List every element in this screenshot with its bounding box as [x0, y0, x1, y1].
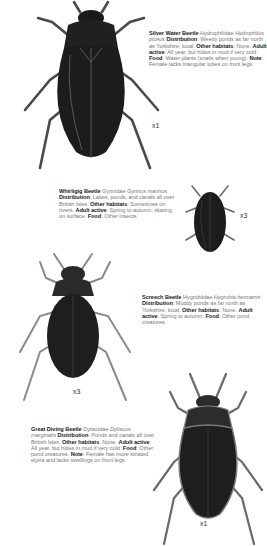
other-habitats-label: Other habitats	[62, 439, 99, 445]
other-habitats-label: Other habitats	[90, 201, 127, 207]
adult-active-label: Adult active	[75, 207, 106, 213]
silver-water-beetle-illustration	[10, 0, 160, 170]
note-label: Note	[249, 55, 261, 61]
food-label: Food	[88, 213, 101, 219]
family-name: Gyrinidae	[102, 188, 126, 194]
food-label: Food	[149, 55, 162, 61]
entry-great-diving-beetle: Great Diving Beetle Dytiscidae Dytiscus …	[31, 426, 157, 464]
scale-label: x3	[73, 388, 80, 395]
food-text: Other insects.	[104, 213, 138, 219]
latin-name: Gyrinus marinus	[127, 188, 167, 194]
latin-name: Hygrobia hermanni	[214, 294, 260, 300]
food-label: Food	[205, 313, 218, 319]
other-habitats-text: None.	[102, 439, 117, 445]
scale-label: x3	[240, 212, 247, 219]
food-label: Food	[123, 445, 136, 451]
species-name: Whirligig Beetle	[59, 188, 100, 194]
adult-active-text: All year, but hides in mud if very cold.	[31, 445, 121, 451]
adult-active-text: All year, but hides in mud if very cold.	[167, 49, 257, 55]
entry-screech-beetle: Screech Beetle Hygrobiidae Hygrobia herm…	[142, 294, 264, 325]
family-name: Dytiscidae	[83, 426, 108, 432]
scale-label: x1	[152, 122, 159, 129]
other-habitats-text: None.	[222, 307, 237, 313]
species-name: Screech Beetle	[142, 294, 181, 300]
other-habitats-label: Other habitats	[196, 43, 233, 49]
distribution-label: Distribution	[58, 432, 89, 438]
note-text: Female lacks triangular lobes on front l…	[149, 61, 253, 67]
other-habitats-label: Other habitats	[182, 307, 219, 313]
scale-label: x1	[200, 520, 207, 527]
family-name: Hygrobiidae	[183, 294, 212, 300]
distribution-label: Distribution	[59, 194, 90, 200]
note-label: Note	[71, 451, 83, 457]
other-habitats-text: None.	[236, 43, 251, 49]
distribution-label: Distribution	[142, 300, 173, 306]
distribution-label: Distribution	[166, 36, 197, 42]
species-name: Silver Water Beetle	[149, 30, 199, 36]
food-text: Water plants (snails when young).	[165, 55, 247, 61]
family-name: Hydrophilidae	[200, 30, 234, 36]
species-name: Great Diving Beetle	[31, 426, 82, 432]
whirligig-beetle-illustration	[180, 178, 240, 258]
adult-active-label: Adult active	[118, 439, 149, 445]
entry-silver-water-beetle: Silver Water Beetle Hydrophilidae Hydrop…	[149, 30, 267, 68]
great-diving-beetle-illustration	[150, 372, 267, 546]
adult-active-text: Spring to autumn.	[161, 313, 204, 319]
entry-whirligig-beetle: Whirligig Beetle Gyrinidae Gyrinus marin…	[59, 188, 177, 219]
